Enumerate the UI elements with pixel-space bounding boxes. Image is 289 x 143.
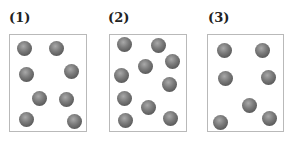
particle-sphere — [261, 70, 276, 85]
panel-label: (2) — [108, 11, 129, 24]
particle-sphere — [67, 114, 82, 129]
particle-sphere — [255, 43, 270, 58]
particle-sphere — [59, 92, 74, 107]
particle-sphere — [114, 68, 129, 83]
particle-sphere — [138, 59, 153, 74]
panel-label: (1) — [9, 11, 30, 24]
particle-sphere — [242, 98, 257, 113]
particle-sphere — [213, 115, 228, 130]
particle-sphere — [165, 54, 180, 69]
particle-sphere — [19, 67, 34, 82]
particle-sphere — [162, 77, 177, 92]
particle-sphere — [49, 41, 64, 56]
particle-sphere — [117, 37, 132, 52]
particle-sphere — [262, 111, 277, 126]
particle-sphere — [17, 41, 32, 56]
panel-label: (3) — [208, 11, 229, 24]
particle-sphere — [117, 91, 132, 106]
particle-sphere — [218, 71, 233, 86]
particle-sphere — [64, 64, 79, 79]
particle-sphere — [151, 38, 166, 53]
particle-sphere — [163, 111, 178, 126]
particle-sphere — [32, 91, 47, 106]
particle-sphere — [19, 112, 34, 127]
particle-sphere — [141, 100, 156, 115]
particle-sphere — [118, 113, 133, 128]
particle-sphere — [217, 43, 232, 58]
